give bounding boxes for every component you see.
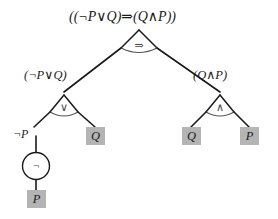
edge-or-to-notp [34, 112, 50, 127]
not-icon: ¬ [29, 160, 43, 171]
and-icon: ∧ [212, 102, 228, 113]
root-formula-label: ((¬P∨Q)⇒(Q∧P)) [69, 10, 176, 24]
left-subformula-label: (¬P∨Q) [24, 69, 67, 82]
edge-and-to-q [191, 112, 206, 127]
implies-icon: ⇒ [130, 40, 148, 51]
edge-root-to-left [64, 48, 121, 92]
edge-and-to-p [234, 112, 249, 127]
leaf-p-right: P [240, 127, 259, 145]
edge-or-to-q [78, 112, 95, 127]
not-p-label: ¬P [13, 128, 28, 140]
logic-parse-tree-diagram: ⇒ ∨ ∧ ¬ ((¬P∨Q)⇒(Q∧P)) (¬P∨Q) (Q∧P) ¬P Q… [0, 0, 278, 219]
leaf-p-bottom: P [27, 190, 46, 208]
tree-edges-canvas [0, 0, 278, 219]
leaf-q-left: Q [86, 127, 105, 145]
or-icon: ∨ [56, 102, 72, 113]
leaf-q-right: Q [182, 127, 201, 145]
right-subformula-label: (Q∧P) [193, 69, 227, 82]
